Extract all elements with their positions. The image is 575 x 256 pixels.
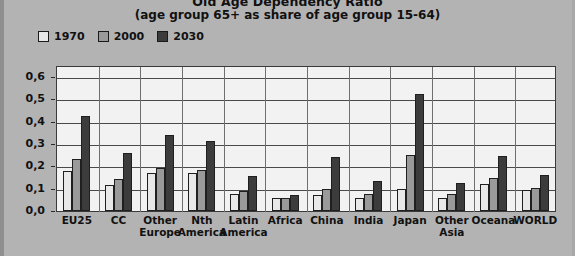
bar-group-china [306, 66, 348, 211]
y-axis-tick-mark [51, 166, 55, 167]
bar-2030-other-asia[interactable] [456, 183, 465, 211]
bar-group-nth-america [181, 66, 223, 211]
bar-1970-china[interactable] [313, 195, 322, 211]
bar-2000-world[interactable] [531, 188, 540, 211]
bar-group-japan [389, 66, 431, 211]
legend-item-2030[interactable]: 2030 [157, 31, 204, 42]
bar-2000-latin-america[interactable] [239, 191, 248, 211]
legend-swatch-icon [157, 31, 168, 42]
bar-2030-japan[interactable] [415, 94, 424, 211]
bar-group-oceana [473, 66, 515, 211]
bar-2000-china[interactable] [322, 189, 331, 211]
bar-2030-china[interactable] [331, 157, 340, 211]
bar-1970-other-asia[interactable] [438, 198, 447, 211]
bar-group-india [348, 66, 390, 211]
bar-2030-africa[interactable] [290, 195, 299, 211]
legend-swatch-icon [98, 31, 109, 42]
y-axis-tick-mark [51, 77, 55, 78]
bar-2000-other-asia[interactable] [447, 194, 456, 211]
bar-group-africa [264, 66, 306, 211]
left-edge-strip [0, 0, 4, 256]
bar-group-cc [98, 66, 140, 211]
x-axis-label-world: WORLD [506, 214, 564, 226]
bar-2000-india[interactable] [364, 194, 373, 211]
bar-2030-other-europe[interactable] [165, 135, 174, 211]
bar-2000-japan[interactable] [406, 155, 415, 211]
y-axis-tick-label: 0,1 [5, 182, 45, 195]
bar-2030-cc[interactable] [123, 153, 132, 211]
x-axis-label-line: WORLD [506, 214, 564, 226]
bar-1970-nth-america[interactable] [188, 173, 197, 211]
chart-legend: 197020002030 [38, 31, 204, 42]
y-axis-tick-label: 0,6 [5, 70, 45, 83]
bar-2030-india[interactable] [373, 181, 382, 211]
y-axis-tick-label: 0,4 [5, 115, 45, 128]
chart-root: Old Age Dependency Ratio (age group 65+ … [0, 0, 575, 256]
bar-group-eu25 [56, 66, 98, 211]
legend-swatch-icon [38, 31, 49, 42]
bar-1970-japan[interactable] [397, 189, 406, 211]
bar-1970-other-europe[interactable] [147, 173, 156, 211]
bar-1970-india[interactable] [355, 198, 364, 211]
bar-group-other-asia [431, 66, 473, 211]
bar-group-latin-america [223, 66, 265, 211]
bar-2000-eu25[interactable] [72, 159, 81, 211]
legend-item-2000[interactable]: 2000 [98, 31, 145, 42]
chart-subtitle: (age group 65+ as share of age group 15-… [0, 8, 575, 22]
y-axis-tick-mark [51, 122, 55, 123]
x-axis-label-line: America [215, 226, 273, 238]
bar-2030-nth-america[interactable] [206, 141, 215, 211]
y-axis-tick-mark [51, 211, 55, 212]
y-axis-tick-label: 0,2 [5, 159, 45, 172]
bar-2000-oceana[interactable] [489, 178, 498, 211]
x-axis-label-line: Asia [423, 226, 481, 238]
bar-1970-africa[interactable] [272, 198, 281, 211]
bar-1970-world[interactable] [522, 190, 531, 211]
bar-2000-africa[interactable] [281, 198, 290, 211]
legend-item-1970[interactable]: 1970 [38, 31, 85, 42]
bar-2030-world[interactable] [540, 175, 549, 211]
x-axis-labels: EU25CCOtherEuropeNthAmericaLatinAmericaA… [56, 214, 556, 254]
bar-2030-eu25[interactable] [81, 116, 90, 211]
y-axis-tick-mark [51, 189, 55, 190]
legend-label: 2030 [173, 31, 204, 42]
y-axis-tick-mark [51, 144, 55, 145]
bar-1970-oceana[interactable] [480, 184, 489, 211]
bars-layer [56, 66, 556, 211]
bar-1970-cc[interactable] [105, 185, 114, 211]
bar-2030-oceana[interactable] [498, 156, 507, 211]
bar-group-other-europe [139, 66, 181, 211]
bar-1970-eu25[interactable] [63, 171, 72, 211]
bar-2000-cc[interactable] [114, 179, 123, 211]
bar-2030-latin-america[interactable] [248, 176, 257, 211]
bar-2000-nth-america[interactable] [197, 170, 206, 211]
y-axis-tick-mark [51, 99, 55, 100]
bar-group-world [514, 66, 556, 211]
bar-1970-latin-america[interactable] [230, 194, 239, 211]
y-axis-tick-label: 0,0 [5, 204, 45, 217]
y-axis-tick-label: 0,3 [5, 137, 45, 150]
bar-2000-other-europe[interactable] [156, 168, 165, 212]
legend-label: 1970 [54, 31, 85, 42]
legend-label: 2000 [114, 31, 145, 42]
y-axis-tick-label: 0,5 [5, 92, 45, 105]
